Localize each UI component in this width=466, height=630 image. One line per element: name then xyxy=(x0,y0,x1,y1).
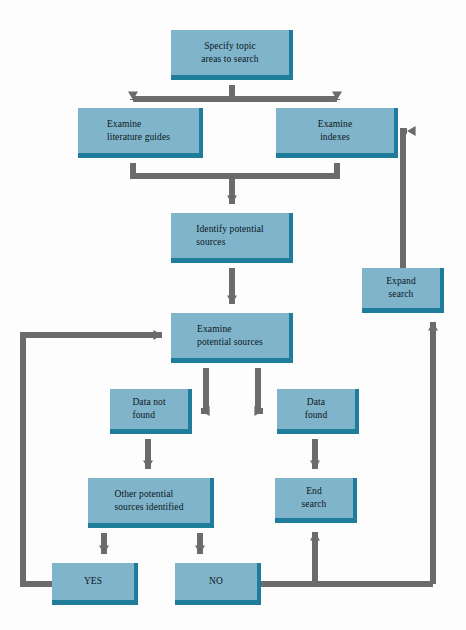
node-identify-potential-sources[interactable]: Identify potential sources xyxy=(171,213,293,263)
node-label: Examine potential sources xyxy=(195,323,265,349)
node-label: Expand search xyxy=(384,275,418,301)
node-expand-search[interactable]: Expand search xyxy=(362,268,444,313)
node-label: Identify potential sources xyxy=(194,223,266,249)
edge-examine-to-datanotfound xyxy=(201,368,206,411)
node-examine-potential-sources[interactable]: Examine potential sources xyxy=(171,313,293,363)
flowchart-canvas: Specify topic areas to search Examine li… xyxy=(0,0,466,630)
node-label: Examine literature guides xyxy=(105,118,172,144)
node-label: Examine indexes xyxy=(316,118,354,144)
node-label: End search xyxy=(300,485,329,511)
node-examine-literature-guides[interactable]: Examine literature guides xyxy=(78,108,203,158)
node-label: Data found xyxy=(303,396,330,422)
node-label: NO xyxy=(207,575,225,588)
node-no[interactable]: NO xyxy=(175,563,261,605)
node-label: Data not found xyxy=(130,396,167,422)
node-examine-indexes[interactable]: Examine indexes xyxy=(276,108,398,158)
node-data-found[interactable]: Data found xyxy=(277,389,359,434)
node-end-search[interactable]: End search xyxy=(275,478,357,523)
node-label: YES xyxy=(82,575,104,588)
edge-expand-to-indexes xyxy=(403,131,407,268)
edge-examine-to-datafound xyxy=(258,368,263,411)
node-data-not-found[interactable]: Data not found xyxy=(110,389,192,434)
node-specify-topic-areas[interactable]: Specify topic areas to search xyxy=(171,30,293,80)
node-label: Specify topic areas to search xyxy=(199,40,260,66)
node-other-potential-sources-identified[interactable]: Other potential sources identified xyxy=(88,478,214,528)
node-label: Other potential sources identified xyxy=(112,488,185,514)
node-yes[interactable]: YES xyxy=(52,563,138,605)
edge-yes-to-examine xyxy=(23,335,162,584)
